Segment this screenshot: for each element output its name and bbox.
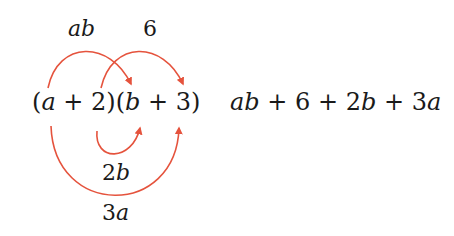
outer-term-label: 3a: [102, 200, 129, 225]
outer-var: a: [116, 200, 129, 225]
last-term-text: 6: [143, 16, 157, 41]
inner-var: b: [116, 160, 130, 185]
last-term-label: 6: [143, 16, 157, 41]
first-term-text: ab: [68, 16, 95, 41]
result-b: b: [361, 88, 376, 116]
paren-open: (: [32, 88, 41, 116]
expanded-result: ab + 6 + 2b + 3a: [230, 88, 441, 116]
last-arrow: [101, 51, 183, 88]
first-term-label: ab: [68, 16, 95, 41]
outer-coef: 3: [102, 200, 116, 225]
foil-diagram: ab 6 (a + 2)(b + 3) ab + 6 + 2b + 3a 2b …: [0, 0, 454, 236]
product-end: + 3): [140, 88, 200, 116]
result-a: a: [427, 88, 441, 116]
var-a: a: [41, 88, 55, 116]
inner-coef: 2: [102, 160, 116, 185]
result-mid: + 6 + 2: [260, 88, 361, 116]
first-arrow: [48, 51, 131, 88]
var-b: b: [125, 88, 140, 116]
result-ab: ab: [230, 88, 260, 116]
binomial-product: (a + 2)(b + 3): [32, 88, 200, 116]
inner-term-label: 2b: [102, 160, 130, 185]
result-plus3: + 3: [376, 88, 427, 116]
product-mid: + 2)(: [56, 88, 125, 116]
inner-arrow: [97, 128, 140, 154]
